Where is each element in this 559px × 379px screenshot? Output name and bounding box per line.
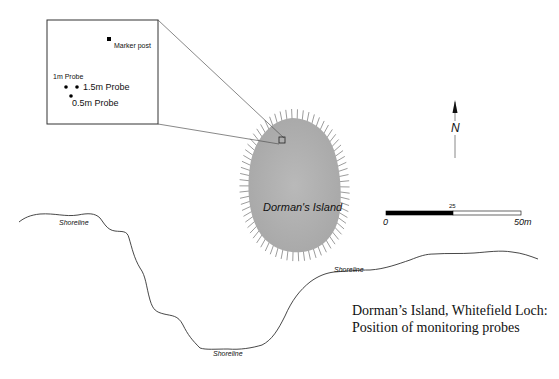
- map-figure: Marker post 1m Probe 1.5m Probe 0.5m Pro…: [0, 0, 559, 379]
- probe-1-5m-label: 1.5m Probe: [83, 82, 130, 92]
- shoreline-label-east: Shoreline: [334, 266, 364, 273]
- inset-box: [47, 20, 158, 124]
- shoreline-label-west: Shoreline: [59, 219, 89, 226]
- caption-line-2: Position of monitoring probes: [352, 319, 548, 336]
- scale-bar-white-segment: [453, 211, 521, 215]
- inset-connector-bottom: [158, 124, 279, 144]
- probe-0-5m-label: 0.5m Probe: [72, 98, 119, 108]
- scale-mid-label: 25: [449, 203, 456, 209]
- island-shape: [248, 118, 340, 252]
- probe-1m-icon: [64, 85, 68, 89]
- scale-start-label: 0: [383, 217, 388, 227]
- shoreline-label-south: Shoreline: [213, 350, 243, 357]
- island-name-label: Dorman's Island: [263, 201, 342, 213]
- caption-line-1: Dorman’s Island, Whitefield Loch:: [352, 302, 548, 319]
- inset-connector-top: [158, 20, 284, 138]
- probe-1m-label: 1m Probe: [53, 73, 83, 80]
- north-arrow-head-icon: [453, 100, 458, 113]
- marker-post-icon: [107, 37, 111, 41]
- north-label: N: [450, 121, 461, 135]
- scale-bar-black-segment: [386, 211, 453, 215]
- figure-caption: Dorman’s Island, Whitefield Loch: Positi…: [352, 302, 548, 336]
- probe-1-5m-icon: [75, 85, 79, 89]
- marker-post-label: Marker post: [114, 42, 151, 49]
- scale-end-label: 50m: [514, 217, 532, 227]
